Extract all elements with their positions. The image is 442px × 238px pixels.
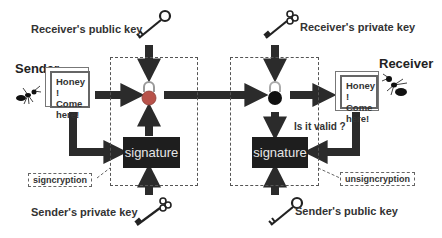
right-lock-icon: [265, 80, 285, 108]
right-message-line1: Honey !: [346, 80, 372, 102]
receiver-label: Receiver: [379, 56, 433, 71]
left-message-line1: Honey !: [56, 76, 84, 98]
receiver-public-key-label: Receiver's public key: [31, 23, 142, 35]
left-message-line2: Come: [56, 98, 84, 109]
receiver-private-key-label: Receiver's private key: [300, 21, 415, 33]
receiver-private-key-icon: [262, 8, 302, 38]
left-message: Honey ! Come here!: [50, 71, 90, 108]
left-message-line3: here!: [56, 109, 84, 120]
signcryption-tag: signcryption: [28, 173, 92, 187]
left-signature-box: signature: [123, 137, 180, 168]
receiver-ant-icon: [381, 73, 409, 99]
left-lock-icon: [139, 80, 159, 108]
right-message: Honey ! Come here!: [340, 75, 378, 109]
receiver-public-key-icon: [135, 8, 175, 38]
sender-private-key-icon: [133, 195, 173, 225]
sender-ant-icon: [15, 84, 43, 106]
unsigncryption-tag: unsigncryption: [340, 172, 415, 186]
is-it-valid-label: Is it valid ?: [294, 121, 346, 132]
right-signature-box: signature: [252, 137, 308, 168]
right-message-line2: Come: [346, 102, 372, 113]
right-message-line3: here!: [346, 113, 372, 124]
sender-private-key-label: Sender's private key: [31, 206, 138, 218]
sender-public-key-label: Sender's public key: [295, 205, 398, 217]
